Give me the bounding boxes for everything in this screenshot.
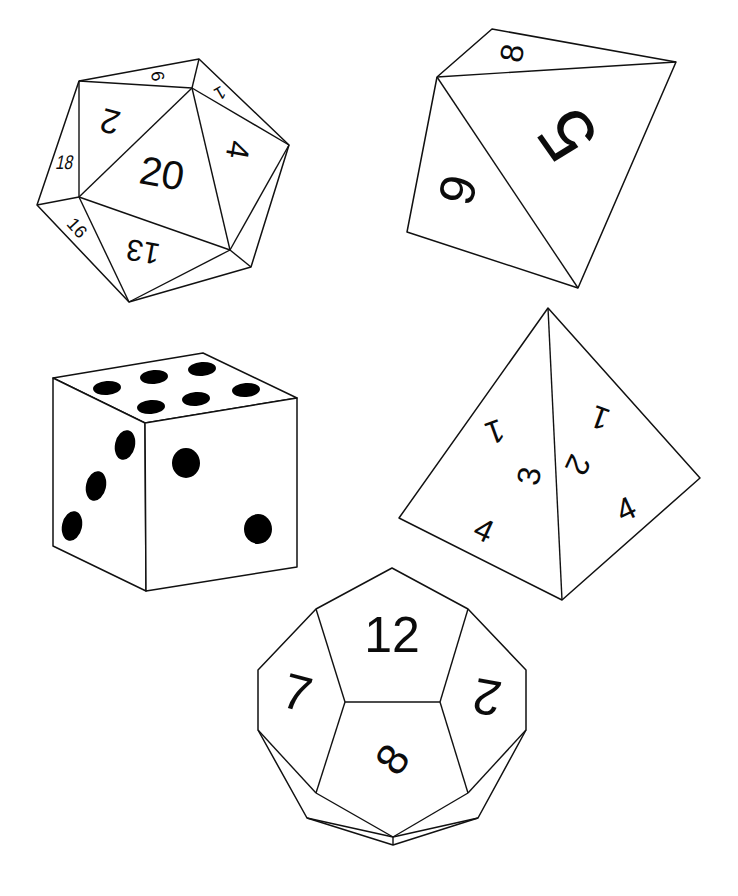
d4-die: 1 3 4 1 2 4 xyxy=(399,308,700,600)
d12-die: 12 7 2 8 xyxy=(258,568,526,845)
d20-face-13: 13 xyxy=(124,233,163,271)
d20-die: 20 2 9 1 4 18 16 13 xyxy=(37,59,289,302)
d6-die xyxy=(53,353,297,591)
d6-right-pip xyxy=(244,514,272,544)
d20-face-20: 20 xyxy=(136,147,187,198)
dice-illustration: 20 2 9 1 4 18 16 13 5 8 9 1 3 4 1 2 4 xyxy=(0,0,738,896)
d6-right-pip xyxy=(172,448,200,478)
d6-right-face xyxy=(145,398,297,591)
d12-face-12: 12 xyxy=(364,607,420,663)
d8-die: 5 8 9 xyxy=(407,29,676,288)
